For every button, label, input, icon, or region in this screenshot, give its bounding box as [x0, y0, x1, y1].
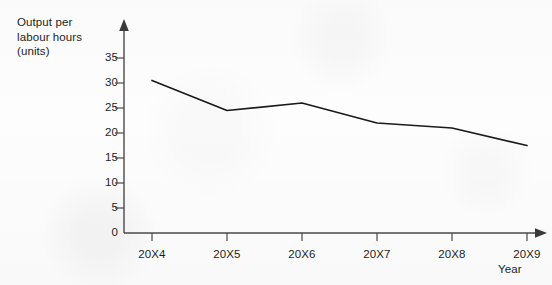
y-axis-arrow-icon	[119, 19, 129, 31]
chart-plot-area	[0, 0, 552, 285]
data-line-series-output-per-labour-hours	[152, 81, 527, 146]
x-axis-ticks	[152, 233, 527, 241]
y-axis-ticks	[115, 58, 124, 208]
chart-screenshot: Output per labour hours (units) Year 35 …	[0, 0, 552, 285]
x-axis-arrow-icon	[535, 228, 547, 238]
